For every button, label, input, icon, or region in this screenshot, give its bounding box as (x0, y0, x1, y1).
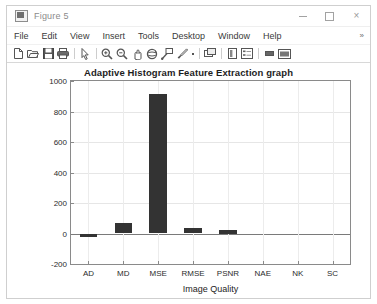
close-button[interactable]: × (343, 6, 370, 26)
menu-bar: File Edit View Insert Tools Desktop Wind… (7, 27, 370, 45)
legend-icon[interactable] (240, 47, 254, 61)
minimize-button[interactable] (289, 6, 316, 26)
x-tick-label-rmse: RMSE (182, 269, 205, 278)
x-axis-label: Image Quality (70, 284, 351, 294)
y-tick-mark (71, 203, 74, 204)
x-tick-mark (193, 261, 194, 264)
pan-icon[interactable] (130, 47, 144, 61)
bar-mse (149, 94, 166, 233)
gridline-horizontal (71, 173, 350, 174)
menu-item-help[interactable]: Help (263, 31, 282, 41)
title-bar: Figure 5 × (7, 6, 370, 27)
gridline-horizontal (71, 142, 350, 143)
x-tick-mark (298, 261, 299, 264)
plot-area: -20002004006008001000ADMDMSERMSEPSNRNAEN… (70, 80, 351, 265)
menu-item-desktop[interactable]: Desktop (172, 31, 205, 41)
link-plot-icon[interactable] (203, 47, 217, 61)
bar-md (115, 223, 132, 233)
y-tick-label: 600 (54, 138, 67, 147)
menu-item-insert[interactable]: Insert (102, 31, 125, 41)
toolbar-separator (258, 48, 259, 59)
brush-dropdown-icon[interactable] (190, 47, 196, 61)
matlab-figure-icon (15, 10, 28, 22)
x-tick-label-nk: NK (292, 269, 303, 278)
x-tick-label-md: MD (117, 269, 129, 278)
x-tick-mark (123, 261, 124, 264)
gridline-horizontal (71, 112, 350, 113)
y-tick-label: -200 (51, 260, 67, 269)
window-controls: × (289, 6, 370, 26)
x-tick-label-mse: MSE (150, 269, 167, 278)
y-tick-label: 800 (54, 107, 67, 116)
save-figure-icon[interactable] (41, 47, 55, 61)
toolbar-separator (74, 48, 75, 59)
brush-icon[interactable] (175, 47, 189, 61)
new-figure-icon[interactable] (11, 47, 25, 61)
x-tick-mark (333, 261, 334, 264)
toolbar-separator (96, 48, 97, 59)
y-tick-label: 200 (54, 199, 67, 208)
colorbar-icon[interactable] (225, 47, 239, 61)
x-tick-label-psnr: PSNR (217, 269, 239, 278)
y-tick-mark (71, 81, 74, 82)
y-tick-mark (71, 112, 74, 113)
figure-window: Figure 5 × File Edit View Insert Tools D… (6, 5, 371, 299)
toolbar-separator (221, 48, 222, 59)
x-tick-mark (158, 261, 159, 264)
gridline-vertical (193, 81, 194, 264)
menu-item-window[interactable]: Window (218, 31, 250, 41)
hide-plot-tools-icon[interactable] (262, 47, 276, 61)
figure-canvas: Adaptive Histogram Feature Extraction gr… (7, 63, 370, 298)
zero-line (71, 234, 350, 235)
y-tick-label: 400 (54, 168, 67, 177)
gridline-vertical (333, 81, 334, 264)
pointer-icon[interactable] (78, 47, 92, 61)
open-file-icon[interactable] (26, 47, 40, 61)
print-figure-icon[interactable] (56, 47, 70, 61)
menu-overflow-icon[interactable]: » (360, 31, 364, 40)
toolbar-separator (199, 48, 200, 59)
y-tick-label: 0 (63, 229, 67, 238)
x-tick-mark (228, 261, 229, 264)
bar-rmse (184, 228, 201, 233)
window-title: Figure 5 (34, 11, 69, 21)
gridline-vertical (88, 81, 89, 264)
rotate-3d-icon[interactable] (145, 47, 159, 61)
bar-psnr (219, 230, 236, 234)
menu-item-edit[interactable]: Edit (42, 31, 58, 41)
y-tick-label: 1000 (49, 77, 67, 86)
y-tick-mark (71, 142, 74, 143)
figure-toolbar (7, 45, 370, 63)
y-tick-mark (71, 264, 74, 265)
x-tick-mark (88, 261, 89, 264)
x-tick-label-sc: SC (327, 269, 338, 278)
maximize-button[interactable] (316, 6, 343, 26)
gridline-horizontal (71, 203, 350, 204)
data-cursor-icon[interactable] (160, 47, 174, 61)
gridline-vertical (263, 81, 264, 264)
menu-item-view[interactable]: View (70, 31, 89, 41)
y-tick-mark (71, 173, 74, 174)
show-plot-tools-icon[interactable] (277, 47, 291, 61)
zoom-out-icon[interactable] (115, 47, 129, 61)
gridline-vertical (228, 81, 229, 264)
gridline-vertical (123, 81, 124, 264)
x-tick-label-nae: NAE (255, 269, 271, 278)
menu-item-tools[interactable]: Tools (138, 31, 159, 41)
gridline-vertical (298, 81, 299, 264)
x-tick-label-ad: AD (83, 269, 94, 278)
menu-item-file[interactable]: File (14, 31, 29, 41)
x-tick-mark (263, 261, 264, 264)
zoom-in-icon[interactable] (100, 47, 114, 61)
bar-ad (80, 234, 97, 237)
